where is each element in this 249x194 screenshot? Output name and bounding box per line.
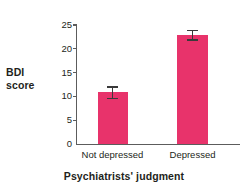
y-axis-title-line-2: score bbox=[6, 79, 52, 92]
y-tick-mark-5 bbox=[73, 120, 76, 121]
y-tick-label-5: 5 bbox=[52, 115, 72, 125]
error-bar-cap-bottom-depressed bbox=[187, 39, 198, 41]
y-axis-line bbox=[76, 24, 77, 145]
y-axis-title: BDI score bbox=[6, 66, 52, 92]
y-tick-label-25: 25 bbox=[52, 20, 72, 30]
y-tick-label-0: 0 bbox=[52, 139, 72, 149]
y-tick-mark-15 bbox=[73, 72, 76, 73]
y-tick-mark-20 bbox=[73, 48, 76, 49]
error-bar-stem-not-depressed bbox=[112, 86, 114, 97]
bar-not-depressed bbox=[98, 92, 128, 145]
y-tick-mark-10 bbox=[73, 96, 76, 97]
y-tick-label-10: 10 bbox=[52, 91, 72, 101]
error-bar-cap-top-depressed bbox=[187, 30, 198, 32]
x-axis-title: Psychiatrists' judgment bbox=[0, 170, 248, 182]
y-tick-label-15: 15 bbox=[52, 68, 72, 78]
y-tick-label-20: 20 bbox=[52, 44, 72, 54]
bar-depressed bbox=[177, 35, 208, 145]
x-category-label-depressed: Depressed bbox=[133, 149, 249, 161]
error-bar-cap-top-not-depressed bbox=[107, 86, 118, 88]
y-tick-mark-25 bbox=[73, 24, 76, 25]
bdi-score-bar-chart: BDI score 25 20 15 10 5 0 Not depressed … bbox=[0, 0, 248, 194]
error-bar-cap-bottom-not-depressed bbox=[107, 98, 118, 100]
y-axis-title-line-1: BDI bbox=[6, 66, 52, 79]
